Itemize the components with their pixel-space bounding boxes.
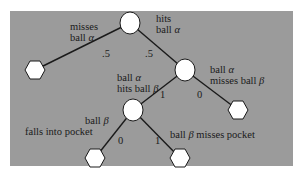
label-ball-alpha-hits-ball-beta: ball α hits ball β — [117, 72, 158, 94]
prob-node2-left: 1 — [160, 89, 165, 100]
label-ball-alpha-misses-ball-beta: ball α misses ball β — [210, 64, 264, 86]
label-hits-ball-alpha: hits ball α — [156, 13, 180, 35]
prob-node3-left: 0 — [118, 135, 123, 146]
terminal-node-misses-pocket — [170, 149, 190, 167]
chance-node-root — [120, 12, 140, 34]
prob-node3-right: 1 — [155, 135, 160, 146]
chance-node-hits-alpha — [175, 59, 195, 81]
label-ball-beta-misses-pocket: ball β misses pocket — [170, 129, 255, 140]
chance-node-hits-beta — [123, 99, 143, 121]
label-misses-ball-alpha: misses ball α — [70, 21, 98, 43]
prob-root-left: .5 — [102, 48, 110, 59]
label-ball-beta-falls-into-pocket: ball β falls into pocket — [25, 115, 109, 137]
terminal-node-misses-alpha — [25, 61, 45, 79]
prob-node2-right: 0 — [197, 89, 202, 100]
terminal-node-misses-beta — [228, 101, 248, 119]
terminal-node-falls-pocket — [85, 149, 105, 167]
prob-root-right: .5 — [145, 48, 153, 59]
